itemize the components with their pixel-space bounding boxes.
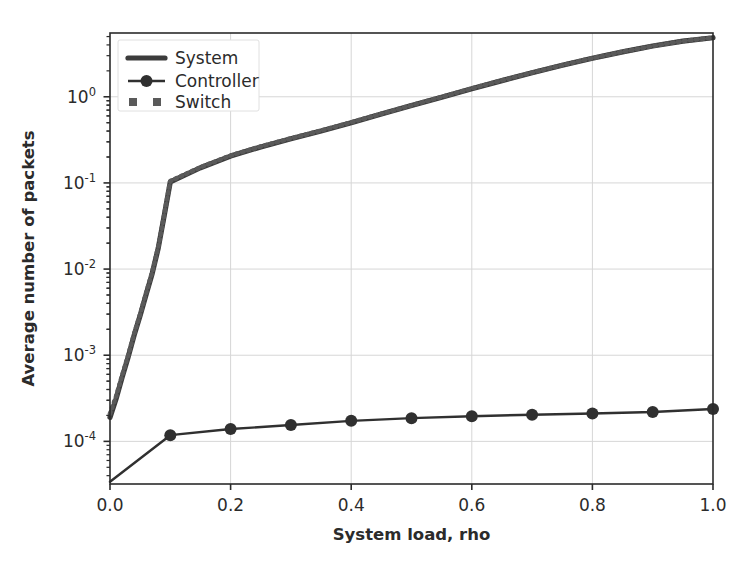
legend-swatch-switch-marker-2 <box>153 98 161 106</box>
legend-swatch-controller-marker <box>141 75 153 87</box>
data-point-controller <box>466 410 478 422</box>
data-point-controller <box>526 409 538 421</box>
data-point-controller <box>164 429 176 441</box>
data-point-controller <box>406 412 418 424</box>
data-point-controller <box>225 423 237 435</box>
x-axis-tick-label: 0.8 <box>579 495 606 515</box>
x-axis-tick-label: 0.6 <box>458 495 485 515</box>
figure-canvas: 0.00.20.40.60.81.010010-110-210-310-4Sys… <box>0 0 746 569</box>
y-axis-tick-label: 10-2 <box>63 257 96 279</box>
y-axis-tick-label: 10-3 <box>63 343 96 365</box>
y-axis-tick-label: 100 <box>67 85 96 107</box>
data-point-controller <box>586 407 598 419</box>
legend-label-controller: Controller <box>175 71 259 91</box>
chart-svg: 0.00.20.40.60.81.010010-110-210-310-4Sys… <box>0 0 746 569</box>
data-point-controller <box>647 406 659 418</box>
y-axis-tick-label: 10-1 <box>63 171 96 193</box>
y-axis-title: Average number of packets <box>19 130 38 386</box>
y-axis-tick-label: 10-4 <box>63 429 96 451</box>
x-axis-title: System load, rho <box>333 525 491 544</box>
x-axis-tick-label: 0.4 <box>338 495 365 515</box>
x-axis-tick-label: 1.0 <box>699 495 726 515</box>
data-point-controller <box>345 415 357 427</box>
legend-label-system: System <box>175 48 238 68</box>
x-axis-tick-label: 0.2 <box>217 495 244 515</box>
data-point-controller <box>285 419 297 431</box>
legend-label-switch: Switch <box>175 92 231 112</box>
x-axis-tick-label: 0.0 <box>96 495 123 515</box>
legend-swatch-switch-marker-1 <box>129 98 137 106</box>
